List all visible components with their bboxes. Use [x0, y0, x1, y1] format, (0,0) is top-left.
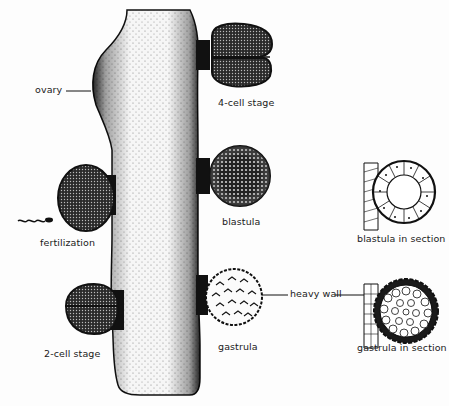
label-blastula-in-section: blastula in section	[357, 233, 445, 244]
blastula-section-figure	[364, 161, 435, 230]
gastrula-section-figure	[364, 279, 438, 348]
fertilization-embryo	[58, 165, 116, 231]
four-cell-embryo	[196, 24, 272, 87]
blastula-embryo	[196, 146, 270, 206]
label-two-cell-stage: 2-cell stage	[44, 348, 100, 359]
sperm-icon	[18, 218, 53, 223]
label-blastula: blastula	[222, 216, 260, 227]
label-heavy-wall: heavy wall	[290, 288, 342, 299]
label-fertilization: fertilization	[40, 237, 95, 248]
gastrula-embryo	[196, 269, 262, 325]
label-four-cell-stage: 4-cell stage	[218, 97, 274, 108]
label-gastrula-in-section: gastrula in section	[357, 342, 447, 353]
diagram-canvas: ovary 4-cell stage blastula fertilizatio…	[0, 0, 449, 406]
label-ovary: ovary	[35, 84, 62, 95]
label-gastrula: gastrula	[218, 341, 258, 352]
two-cell-embryo	[66, 284, 124, 334]
